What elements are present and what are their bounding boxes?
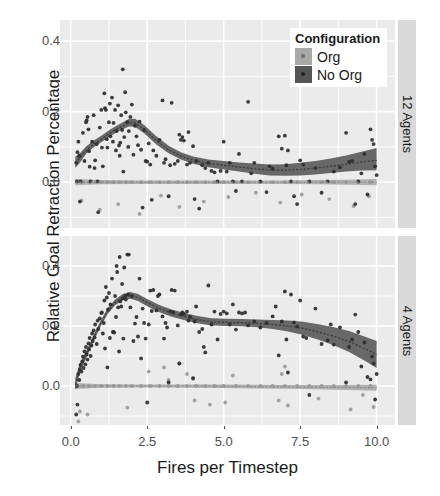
y-tick-label: 0.0	[16, 174, 60, 189]
facet-panel-4-agents	[60, 236, 395, 425]
facet-plot-4-agents	[60, 236, 395, 425]
chart-root: Relative Goal Retraction Percentage 0.00…	[0, 0, 440, 496]
x-tick-mark	[71, 426, 72, 429]
strip-label-12-agents: 12 Agents	[398, 20, 416, 228]
legend: Configuration Org No Org	[290, 28, 387, 87]
x-tick-mark	[224, 426, 225, 429]
legend-label-org: Org	[317, 49, 340, 65]
y-axis-tick-labels: 0.00.20.40.00.20.4	[14, 0, 60, 496]
x-axis-title: Fires per Timestep	[60, 458, 395, 478]
y-tick-label: 0.2	[16, 104, 60, 119]
legend-key-org-icon	[295, 48, 312, 65]
legend-item-no-org[interactable]: No Org	[295, 66, 380, 83]
legend-key-no-org-icon	[295, 66, 312, 83]
x-tick-mark	[147, 426, 148, 429]
y-tick-label: 0.4	[16, 33, 60, 48]
x-tick-label: 5.0	[201, 434, 247, 449]
x-axis-tick-labels: 0.02.55.07.510.0	[0, 428, 440, 452]
legend-title: Configuration	[295, 31, 380, 46]
strip-label-4-agents: 4 Agents	[398, 236, 416, 425]
y-tick-label: 0.0	[16, 378, 60, 393]
x-tick-mark	[300, 426, 301, 429]
strip-text-bottom: 4 Agents	[400, 305, 415, 356]
legend-item-org[interactable]: Org	[295, 48, 380, 65]
x-tick-mark	[377, 426, 378, 429]
strip-text-top: 12 Agents	[400, 95, 415, 153]
x-tick-label: 0.0	[48, 434, 94, 449]
x-tick-label: 7.5	[277, 434, 323, 449]
legend-label-no-org: No Org	[317, 67, 362, 83]
y-tick-label: 0.4	[16, 258, 60, 273]
x-tick-label: 2.5	[124, 434, 170, 449]
x-tick-label: 10.0	[354, 434, 400, 449]
y-tick-label: 0.2	[16, 318, 60, 333]
